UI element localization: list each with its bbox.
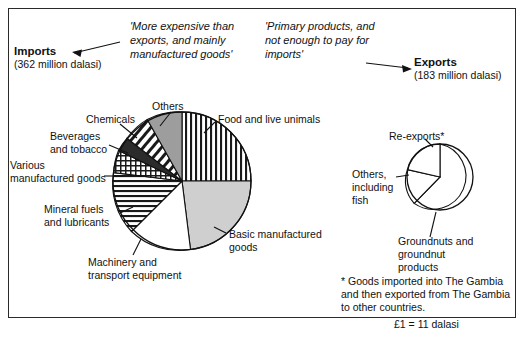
label-mineral-line-2: and lubricants <box>44 216 109 228</box>
label-chemicals: Chemicals <box>86 113 135 125</box>
exports-quote-line-1: 'Primary products, and <box>265 20 375 33</box>
footnote-line-1: * Goods imported into The Gambia <box>341 275 503 287</box>
imports-quote-line-1: 'More expensive than <box>130 20 234 33</box>
label-various-line-2: manufactured goods <box>10 172 106 184</box>
label-various-line-1: Various <box>10 159 45 171</box>
label-others-fish-line-3: fish <box>352 194 368 206</box>
imports-value: (362 million dalasi) <box>14 58 102 70</box>
label-machinery-line-1: Machinery and <box>88 256 157 268</box>
label-mineral-line-1: Mineral fuels <box>44 203 104 215</box>
exports-quote-line-2: not enough to pay for <box>265 34 369 47</box>
exports-quote-line-3: imports' <box>265 48 303 61</box>
label-others-fish-line-1: Others, <box>352 168 386 180</box>
label-re-exports: Re-exports* <box>389 130 444 142</box>
label-machinery-line-2: transport equipment <box>88 269 181 281</box>
label-groundnuts-line-1: Groundnuts and <box>398 235 473 247</box>
imports-quote-line-2: exports, and mainly <box>130 34 225 47</box>
label-beverages-line-1: Beverages <box>50 130 100 142</box>
footnote-line-3: to other countries. <box>341 301 425 313</box>
label-others-fish-line-2: including <box>352 181 393 193</box>
label-groundnuts-line-3: products <box>398 261 438 273</box>
imports-title: Imports <box>14 45 56 59</box>
figure-frame <box>8 8 516 318</box>
footnote-line-2: and then exported from The Gambia <box>341 288 510 300</box>
label-others: Others <box>152 100 184 112</box>
label-groundnuts-line-2: groundnut <box>398 248 445 260</box>
figure-root: Imports (362 million dalasi) 'More expen… <box>0 0 529 338</box>
exchange-rate-note: £1 = 11 dalasi <box>394 318 459 330</box>
label-basic-line-2: goods <box>229 241 258 253</box>
label-basic-line-1: Basic manufactured <box>229 228 322 240</box>
imports-quote-line-3: manufactured goods' <box>130 48 232 61</box>
exports-value: (183 million dalasi) <box>414 69 502 81</box>
label-beverages-line-2: and tobacco <box>50 143 107 155</box>
label-food-and-live-animals: Food and live unimals <box>218 113 320 125</box>
exports-title: Exports <box>414 56 457 70</box>
